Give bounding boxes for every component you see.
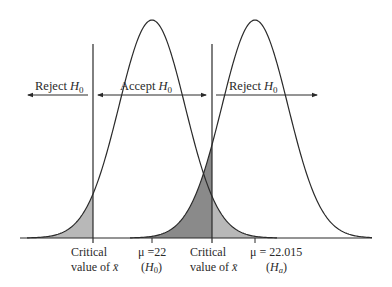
label-accept-h0: Accept H0 (120, 79, 173, 95)
label-critical-left-1: Critical (71, 245, 108, 259)
label-h0-hyp: (H0) (141, 260, 162, 275)
hypothesis-test-diagram: Reject H0 Accept H0 Reject H0 Critical v… (0, 0, 392, 287)
label-mu-ha: μ = 22.015 (250, 245, 302, 259)
label-critical-right-2: value of x̄ (190, 260, 238, 274)
ha-normal-curve (130, 20, 372, 238)
label-reject-h0-left: Reject H0 (35, 79, 84, 95)
h0-normal-curve (27, 20, 277, 238)
label-ha-hyp: (Ha) (266, 260, 287, 275)
label-critical-left-2: value of x̄ (71, 260, 119, 274)
label-reject-h0-right: Reject H0 (229, 79, 278, 95)
label-critical-right-1: Critical (190, 245, 227, 259)
alpha-left-tail-region (40, 194, 93, 238)
beta-region (140, 145, 212, 238)
label-mu-h0: μ =22 (138, 245, 166, 259)
